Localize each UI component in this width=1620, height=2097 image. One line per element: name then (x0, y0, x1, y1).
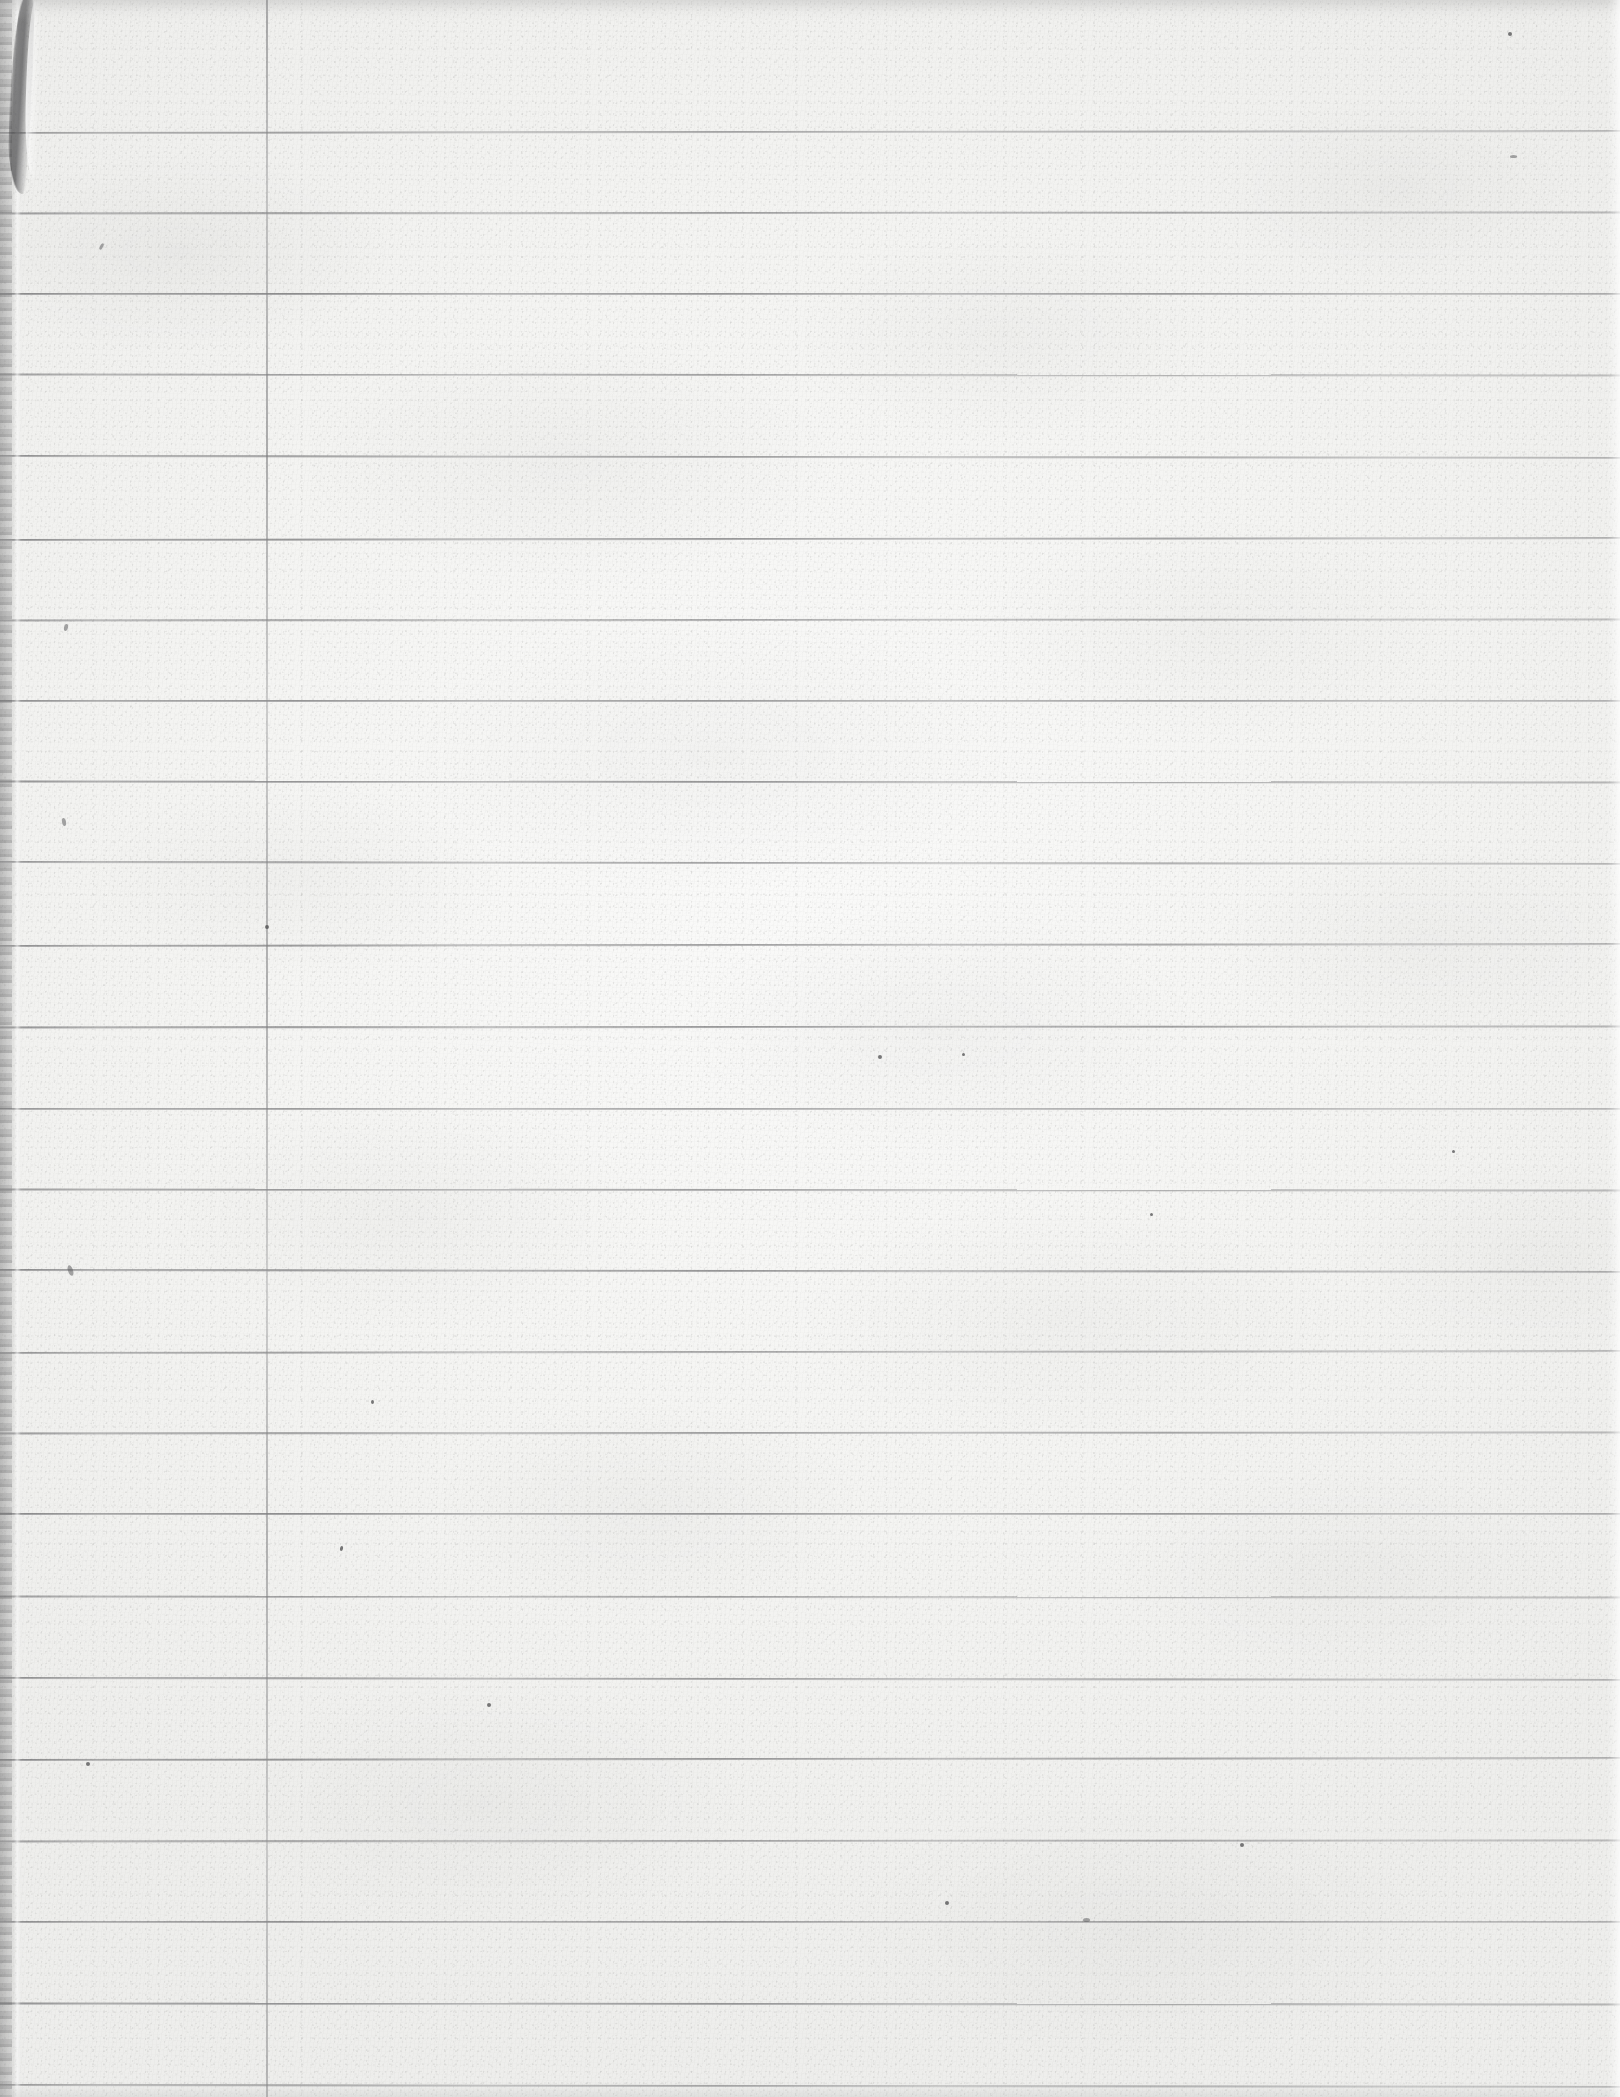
paper-fiber-texture (0, 0, 1620, 2097)
scanned-page (0, 0, 1620, 2097)
